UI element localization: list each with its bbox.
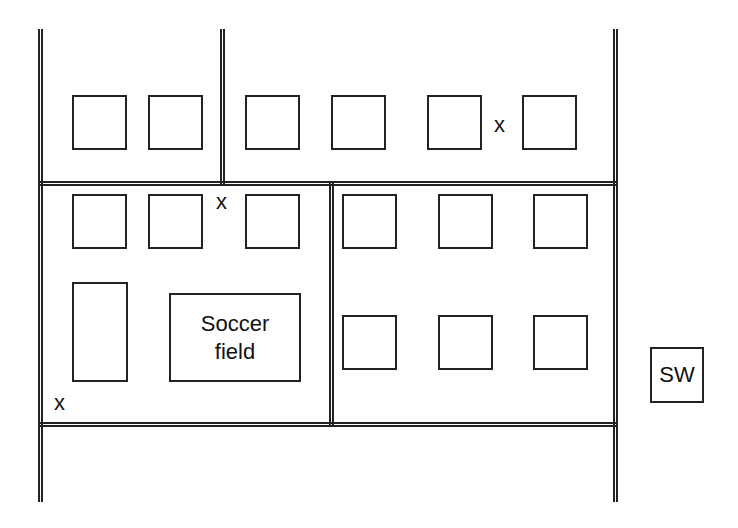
building-block: [72, 95, 127, 150]
building-block: [72, 194, 127, 249]
soccer-field: Soccer field: [169, 293, 301, 382]
road-left: [38, 29, 43, 502]
building-block: [438, 194, 493, 249]
building-block: [438, 315, 493, 370]
sw-label: SW: [659, 362, 694, 388]
soccer-field-label-line1: Soccer: [201, 310, 269, 338]
road-upper-horizontal: [38, 181, 618, 186]
x-mark: x: [216, 191, 227, 213]
building-block: [245, 95, 300, 150]
soccer-field-label: Soccer field: [201, 310, 269, 366]
building-block: [533, 315, 588, 370]
building-block: [342, 315, 397, 370]
building-block: [427, 95, 482, 150]
building-block: [533, 194, 588, 249]
x-mark: x: [54, 392, 65, 414]
soccer-field-label-line2: field: [201, 338, 269, 366]
map-diagram: Soccer field SW x x x: [0, 0, 738, 528]
tall-building-block: [72, 282, 128, 382]
building-block: [148, 95, 203, 150]
road-right: [613, 29, 618, 502]
building-block: [331, 95, 386, 150]
road-lower-horizontal: [38, 422, 618, 427]
building-block: [342, 194, 397, 249]
x-mark: x: [494, 114, 505, 136]
sw-box: SW: [650, 347, 704, 403]
building-block: [148, 194, 203, 249]
building-block: [245, 194, 300, 249]
building-block: [522, 95, 577, 150]
road-middle-top: [220, 29, 225, 185]
road-middle-lower: [329, 183, 334, 425]
